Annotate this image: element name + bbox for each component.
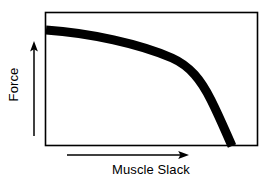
y-axis-arrow (30, 41, 38, 136)
x-axis-arrow (67, 151, 189, 159)
force-curve (46, 30, 232, 146)
y-axis-label: Force (7, 55, 20, 115)
plot-canvas (0, 0, 270, 181)
force-muscle-slack-figure: Force Muscle Slack (0, 0, 270, 181)
x-axis-label: Muscle Slack (45, 163, 257, 176)
